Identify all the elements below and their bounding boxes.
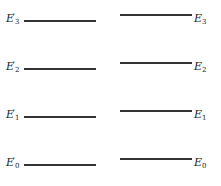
level-index: 2	[15, 66, 19, 74]
level-symbol: E	[194, 108, 202, 121]
right-level-label: E0	[194, 157, 207, 172]
right-level-line	[120, 110, 192, 112]
right-level-label: E3	[194, 13, 207, 28]
level-symbol: E	[194, 12, 202, 25]
left-level-label: E'1	[6, 107, 19, 124]
level-index: 3	[202, 18, 206, 26]
right-level-label: E2	[194, 61, 207, 76]
level-index: 0	[202, 162, 206, 170]
left-level-line	[24, 164, 96, 166]
level-index: 1	[202, 114, 206, 122]
left-level-label: E'2	[6, 59, 19, 76]
level-symbol: E	[194, 60, 202, 73]
left-level-label: E'3	[6, 11, 19, 28]
right-level-line	[120, 62, 192, 64]
left-level-label: E'0	[6, 155, 19, 172]
level-index: 1	[15, 114, 19, 122]
left-level-line	[24, 20, 96, 22]
left-level-line	[24, 116, 96, 118]
right-level-line	[120, 14, 192, 16]
level-index: 2	[202, 66, 206, 74]
level-index: 3	[15, 18, 19, 26]
right-level-label: E1	[194, 109, 207, 124]
level-index: 0	[15, 162, 19, 170]
right-level-line	[120, 158, 192, 160]
left-level-line	[24, 68, 96, 70]
level-symbol: E	[194, 156, 202, 169]
